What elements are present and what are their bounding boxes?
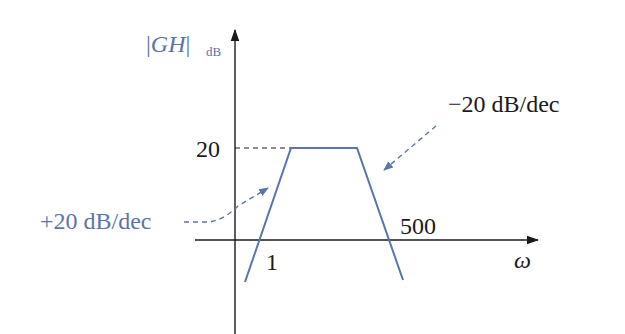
- x-tick-label-500: 500: [400, 213, 436, 239]
- y-tick-label-20: 20: [196, 136, 220, 162]
- rising-slope-label: +20 dB/dec: [40, 208, 152, 234]
- y-axis-label-main: GH: [151, 31, 187, 57]
- y-axis-label-subscript: dB: [206, 44, 222, 59]
- x-axis-label: ω: [514, 247, 531, 273]
- bode-diagram: |GH| dB 20 1 500 ω −20 dB/dec +20 dB/dec: [0, 0, 625, 334]
- falling-slope-label: −20 dB/dec: [448, 91, 560, 117]
- y-axis-label: |GH|: [146, 31, 190, 57]
- x-tick-label-1: 1: [266, 249, 278, 275]
- falling-slope-arrow: [384, 126, 436, 170]
- rising-slope-arrow: [184, 188, 268, 222]
